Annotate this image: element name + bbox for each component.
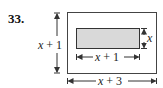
diagram: x + 1 x x + 1 x + 3 — [0, 0, 163, 88]
outer-height-label: x + 1 — [37, 38, 62, 52]
inner-width-label: x + 1 — [94, 50, 119, 64]
inner-height-label: x — [146, 31, 153, 45]
outer-width-label: x + 3 — [97, 74, 122, 88]
inner-rectangle — [77, 29, 140, 49]
